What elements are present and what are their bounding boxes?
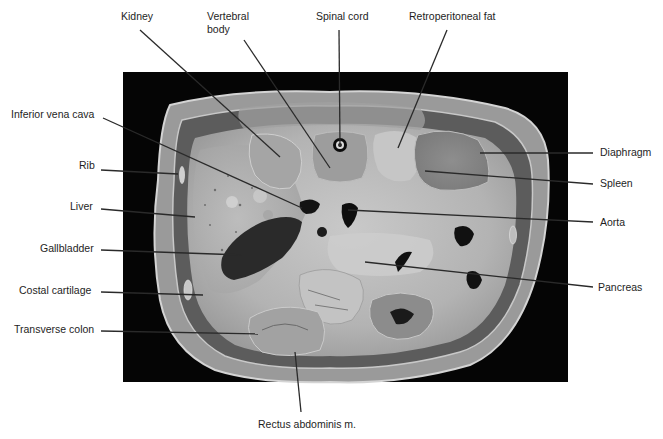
cross-section-photo [0, 0, 663, 439]
label-kidney: Kidney [121, 10, 153, 23]
label-diaphragm: Diaphragm [600, 146, 651, 159]
label-vertebral-body: Vertebral body [207, 10, 249, 36]
label-spinal-cord: Spinal cord [316, 10, 369, 23]
label-retroperitoneal-fat: Retroperitoneal fat [409, 10, 495, 23]
label-pancreas: Pancreas [598, 281, 642, 294]
label-vertebral-body-line2: body [207, 23, 249, 36]
label-gallbladder: Gallbladder [40, 242, 94, 255]
label-aorta: Aorta [600, 216, 625, 229]
label-spleen: Spleen [600, 177, 633, 190]
label-rectus-abdominis: Rectus abdominis m. [258, 418, 356, 431]
label-liver: Liver [70, 200, 93, 213]
label-costal-cartilage: Costal cartilage [19, 284, 91, 297]
label-transverse-colon: Transverse colon [14, 323, 94, 336]
label-vertebral-body-line1: Vertebral [207, 10, 249, 23]
label-rib: Rib [79, 159, 95, 172]
label-inferior-vena-cava: Inferior vena cava [11, 108, 94, 121]
anatomy-figure: Kidney Vertebral body Spinal cord Retrop… [0, 0, 663, 439]
